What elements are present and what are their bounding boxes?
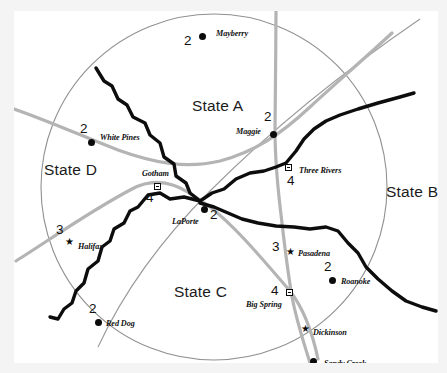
city-marker-maggie[interactable]	[270, 131, 277, 138]
city-label-halifax: Halifax	[78, 242, 103, 251]
city-number-pasadena: 3	[272, 239, 280, 254]
state-label-c: State C	[174, 283, 227, 301]
city-marker-sandy-creek[interactable]	[310, 358, 317, 363]
city-marker-gotham[interactable]	[154, 183, 161, 190]
city-label-red-dog: Red Dog	[106, 319, 135, 328]
city-number-white-pines: 2	[80, 121, 88, 136]
map-frame: State A State B State C State D Mayberry…	[0, 0, 447, 373]
city-label-laporte: LaPorte	[172, 217, 199, 226]
city-label-maggie: Maggie	[236, 127, 261, 136]
state-label-b: State B	[386, 183, 438, 201]
city-number-halifax: 3	[56, 222, 64, 237]
city-marker-three-rivers[interactable]	[285, 164, 292, 171]
map-canvas: State A State B State C State D Mayberry…	[14, 11, 438, 363]
city-marker-laporte[interactable]	[201, 206, 208, 213]
road-northwest-southeast	[16, 182, 318, 359]
city-marker-big-spring[interactable]	[286, 289, 293, 296]
city-marker-pasadena[interactable]: ★	[286, 248, 295, 255]
state-label-d: State D	[44, 161, 97, 179]
city-marker-dickinson[interactable]: ★	[301, 325, 310, 332]
map-graphics	[14, 11, 438, 363]
state-label-a: State A	[192, 97, 243, 115]
city-label-roanoke: Roanoke	[341, 277, 370, 286]
city-number-laporte: 2	[210, 207, 218, 222]
city-number-three-rivers: 4	[287, 173, 295, 188]
city-marker-white-pines[interactable]	[88, 139, 95, 146]
city-marker-halifax[interactable]: ★	[65, 238, 74, 245]
city-label-white-pines: White Pines	[100, 133, 140, 142]
city-label-pasadena: Pasadena	[298, 249, 330, 258]
city-number-maggie: 2	[264, 109, 272, 124]
city-label-mayberry: Mayberry	[216, 29, 248, 38]
city-label-three-rivers: Three Rivers	[299, 166, 341, 175]
city-label-big-spring: Big Spring	[246, 300, 282, 309]
city-number-gotham: 4	[146, 190, 154, 205]
city-number-roanoke: 2	[324, 259, 332, 274]
city-number-mayberry: 2	[184, 33, 192, 48]
city-label-sandy-creek: Sandy Creek	[324, 359, 366, 363]
city-label-gotham: Gotham	[142, 169, 169, 178]
city-marker-mayberry[interactable]	[199, 33, 206, 40]
city-marker-roanoke[interactable]	[329, 277, 336, 284]
city-marker-red-dog[interactable]	[95, 319, 102, 326]
city-label-dickinson: Dickinson	[313, 328, 347, 337]
city-number-red-dog: 2	[89, 301, 97, 316]
city-number-big-spring: 4	[271, 283, 279, 298]
